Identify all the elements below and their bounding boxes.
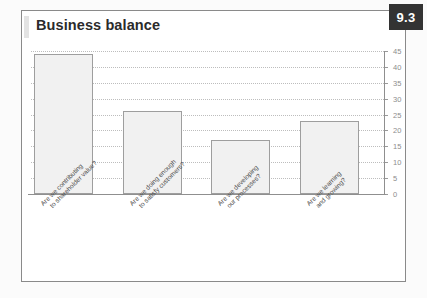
title-accent-bar: [24, 16, 29, 38]
y-axis-line: [384, 51, 385, 195]
y-axis-tick-label: 5: [393, 174, 397, 183]
y-axis-tick-label: 25: [393, 110, 401, 119]
y-axis-tick-label: 35: [393, 78, 401, 87]
chart-card-page: Business balance 9.3 454035302520151050 …: [0, 0, 427, 298]
y-axis-tick-label: 40: [393, 62, 401, 71]
y-axis-tick-label: 30: [393, 94, 401, 103]
y-axis-tick-label: 20: [393, 126, 401, 135]
y-axis-tick-label: 0: [393, 190, 397, 199]
bar-chart-plot-area: 454035302520151050 Are we contributingto…: [31, 51, 386, 194]
y-axis-tick-label: 15: [393, 142, 401, 151]
y-axis-tick-label: 10: [393, 158, 401, 167]
gridline: [31, 51, 386, 52]
page-title: Business balance: [36, 17, 160, 33]
y-axis-tick-label: 45: [393, 47, 401, 56]
section-number-badge: 9.3: [389, 4, 423, 30]
